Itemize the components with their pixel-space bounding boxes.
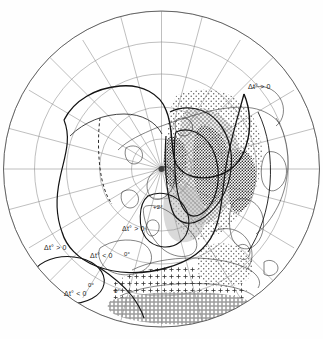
annotation-zero-degrees-lowerleft: 0°: [88, 282, 94, 288]
annotation-delta-t-positive-northeast: Δt° > 0: [248, 83, 271, 90]
annotation-zero-degrees-bottom: 0°: [114, 288, 120, 294]
polar-map-svg: [0, 0, 323, 339]
annotation-delta-t-negative-south: Δt° < 0: [64, 290, 87, 297]
annotation-delta-t-positive-center: Δt° > 0: [122, 225, 145, 232]
annotation-delta-t-negative-southwest: Δt° < 0: [90, 252, 113, 259]
annotation-delta-t-positive-west: Δt° > 0: [44, 244, 67, 251]
annotation-plus-two-degrees: +2°: [153, 204, 163, 210]
figure-root: Δt° > 0 +2° Δt° > 0 Δt° > 0 Δt° < 0 0° Δ…: [0, 0, 323, 339]
map-body: [0, 0, 323, 339]
annotation-zero-degrees-center: 0°: [124, 251, 130, 257]
